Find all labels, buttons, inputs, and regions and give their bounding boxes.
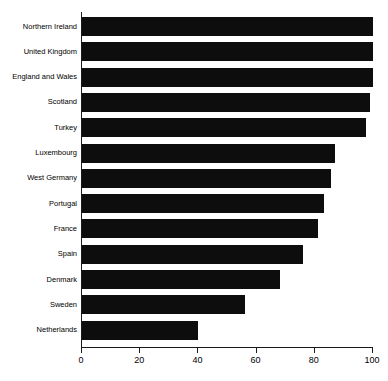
bar-chart: Northern IrelandUnited KingdomEngland an… — [0, 0, 388, 381]
x-tick-label: 60 — [236, 355, 276, 366]
category-label: West Germany — [27, 173, 77, 182]
x-tick — [139, 348, 140, 353]
x-tick-label: 20 — [119, 355, 159, 366]
x-tick — [81, 348, 82, 353]
bar-fill — [82, 93, 370, 112]
x-tick — [372, 348, 373, 353]
x-tick — [197, 348, 198, 353]
category-label: Portugal — [49, 199, 77, 208]
bar-fill — [82, 17, 373, 36]
category-label: United Kingdom — [24, 47, 77, 56]
bar-fill — [82, 270, 280, 289]
bar-fill — [82, 68, 373, 87]
category-label: Spain — [58, 249, 77, 258]
category-label: Luxembourg — [35, 148, 77, 157]
bar-fill — [82, 42, 373, 61]
category-label: Denmark — [47, 275, 77, 284]
x-tick-label: 100 — [352, 355, 388, 366]
x-tick — [256, 348, 257, 353]
category-label: England and Wales — [12, 72, 77, 81]
category-label: Netherlands — [37, 325, 77, 334]
bar-fill — [82, 295, 245, 314]
category-label: France — [54, 224, 77, 233]
category-label: Sweden — [50, 300, 77, 309]
x-tick-label: 0 — [61, 355, 101, 366]
bar-fill — [82, 245, 303, 264]
bar-fill — [82, 118, 366, 137]
bar-fill — [82, 169, 331, 188]
category-label: Northern Ireland — [23, 22, 77, 31]
bar-fill — [82, 194, 324, 213]
x-tick-label: 80 — [294, 355, 334, 366]
x-tick-label: 40 — [177, 355, 217, 366]
category-label: Scotland — [48, 97, 77, 106]
bar-fill — [82, 321, 198, 340]
category-label: Turkey — [54, 123, 77, 132]
bar-fill — [82, 219, 318, 238]
bar-fill — [82, 144, 335, 163]
x-tick — [314, 348, 315, 353]
